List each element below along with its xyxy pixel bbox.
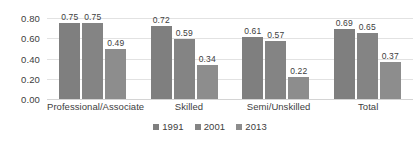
bar-value-label: 0.57 — [267, 30, 284, 40]
bar-groups: 0.750.750.490.720.590.340.610.570.220.69… — [47, 18, 413, 99]
bar-value-label: 0.72 — [153, 15, 170, 25]
bar-group: 0.610.570.22 — [230, 18, 322, 99]
bar-slot: 0.75 — [59, 18, 80, 99]
bar[interactable] — [334, 29, 355, 99]
bar-slot: 0.34 — [197, 18, 218, 99]
y-axis-tick-label: 0.20 — [21, 73, 40, 84]
bar-chart: 0.800.600.400.200.00 0.750.750.490.720.5… — [0, 0, 420, 142]
bar-value-label: 0.61 — [244, 26, 261, 36]
bar[interactable] — [380, 62, 401, 99]
legend-swatch-icon — [236, 124, 242, 130]
bar-slot: 0.65 — [357, 18, 378, 99]
y-axis-tick-label: 0.00 — [21, 94, 40, 105]
y-axis-tick-label: 0.80 — [21, 13, 40, 24]
bar[interactable] — [288, 77, 309, 99]
bars: 0.750.750.49 — [47, 18, 139, 99]
bar-value-label: 0.49 — [107, 38, 124, 48]
x-axis-tick-label: Skilled — [144, 101, 234, 112]
bar[interactable] — [105, 49, 126, 99]
bar[interactable] — [151, 26, 172, 99]
legend-swatch-icon — [195, 124, 201, 130]
bar-value-label: 0.34 — [199, 54, 216, 64]
bar-slot: 0.59 — [174, 18, 195, 99]
y-axis-tick-label: 0.60 — [21, 33, 40, 44]
x-axis-tick-label: Professional/Associate — [47, 101, 144, 112]
x-axis-tick-label: Total — [323, 101, 413, 112]
bars: 0.690.650.37 — [322, 18, 414, 99]
bar-value-label: 0.37 — [382, 51, 399, 61]
bar[interactable] — [59, 23, 80, 99]
bars: 0.720.590.34 — [139, 18, 231, 99]
bar-slot: 0.37 — [380, 18, 401, 99]
bar-slot: 0.69 — [334, 18, 355, 99]
x-axis-category-labels: Professional/AssociateSkilledSemi/Unskil… — [47, 101, 413, 112]
x-axis-tick-label: Semi/Unskilled — [234, 101, 324, 112]
bars: 0.610.570.22 — [230, 18, 322, 99]
bar-value-label: 0.69 — [336, 18, 353, 28]
bar-value-label: 0.75 — [61, 12, 78, 22]
legend-label: 1991 — [162, 121, 184, 132]
bar[interactable] — [265, 41, 286, 99]
bar-slot: 0.22 — [288, 18, 309, 99]
bar[interactable] — [357, 33, 378, 99]
gridline — [47, 99, 413, 100]
bar-slot: 0.57 — [265, 18, 286, 99]
y-axis-tick-label: 0.40 — [21, 53, 40, 64]
y-axis: 0.800.600.400.200.00 — [0, 18, 44, 99]
bar[interactable] — [174, 39, 195, 99]
legend-item-2013[interactable]: 2013 — [236, 121, 267, 132]
bar[interactable] — [197, 65, 218, 99]
legend-item-1991[interactable]: 1991 — [153, 121, 184, 132]
bar-value-label: 0.59 — [176, 28, 193, 38]
bar-slot: 0.61 — [242, 18, 263, 99]
legend-item-2001[interactable]: 2001 — [195, 121, 226, 132]
legend-swatch-icon — [153, 124, 159, 130]
chart-legend: 199120012013 — [0, 121, 420, 132]
bar-slot: 0.49 — [105, 18, 126, 99]
bar[interactable] — [242, 37, 263, 99]
bar-group: 0.720.590.34 — [139, 18, 231, 99]
bar-value-label: 0.22 — [290, 66, 307, 76]
legend-label: 2013 — [245, 121, 267, 132]
bar-group: 0.690.650.37 — [322, 18, 414, 99]
bar[interactable] — [82, 23, 103, 99]
bar-slot: 0.72 — [151, 18, 172, 99]
bar-group: 0.750.750.49 — [47, 18, 139, 99]
bar-value-label: 0.65 — [359, 22, 376, 32]
legend-label: 2001 — [204, 121, 226, 132]
bar-value-label: 0.75 — [84, 12, 101, 22]
bar-slot: 0.75 — [82, 18, 103, 99]
